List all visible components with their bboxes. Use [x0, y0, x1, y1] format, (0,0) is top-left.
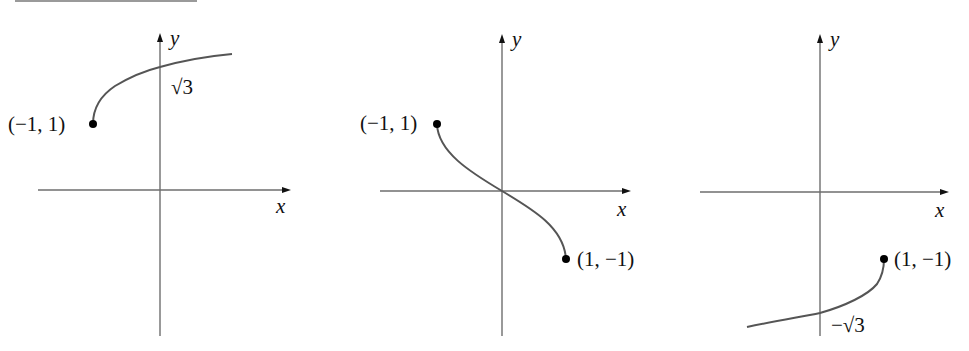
end-point-label: (1, −1) — [577, 247, 634, 271]
x-axis-label: x — [616, 197, 627, 221]
endpoint-dot — [89, 120, 97, 128]
end-point-dot — [562, 255, 570, 263]
graph-1: y x (−1, 1) √3 — [8, 26, 291, 336]
graph-3: y x (1, −1) −√3 — [700, 27, 951, 337]
curve — [93, 54, 232, 124]
x-axis-label: x — [275, 194, 286, 218]
x-axis-label: x — [934, 198, 945, 222]
y-axis-arrow-icon — [157, 33, 163, 42]
start-point-label: (−1, 1) — [360, 111, 417, 135]
y-axis-arrow-icon — [499, 34, 505, 43]
x-axis-arrow-icon — [940, 189, 949, 195]
x-axis-arrow-icon — [282, 187, 291, 193]
y-axis-label: y — [168, 26, 180, 50]
y-axis-arrow-icon — [817, 34, 823, 43]
y-axis-label: y — [510, 27, 522, 51]
x-axis-arrow-icon — [622, 188, 631, 194]
intercept-label: √3 — [171, 75, 193, 99]
graph-2: y x (−1, 1) (1, −1) — [360, 27, 634, 336]
point-label: (1, −1) — [894, 247, 951, 271]
point-label: (−1, 1) — [8, 112, 65, 136]
figure: y x (−1, 1) √3 y x (−1, 1) (1, −1) y x (… — [0, 0, 969, 351]
endpoint-dot — [880, 255, 888, 263]
y-axis-label: y — [828, 27, 840, 51]
intercept-label: −√3 — [831, 313, 865, 337]
start-point-dot — [433, 120, 441, 128]
